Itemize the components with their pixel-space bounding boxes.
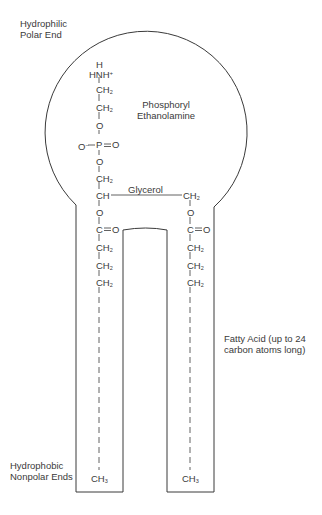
atom-ch3-left: CH3 — [91, 474, 108, 486]
hydrophilic-label: Hydrophilic Polar End — [20, 18, 67, 40]
atom-c-o: O — [112, 225, 119, 235]
hydrophobic-label: Hydrophobic Nonpolar Ends — [10, 460, 73, 482]
glycerol-label: Glycerol — [128, 184, 163, 195]
atom-c-right: C — [187, 225, 194, 235]
atom-ch2-f: CH2 — [96, 278, 113, 290]
atom-p: P — [96, 140, 102, 150]
right-chain-bonds — [190, 200, 202, 470]
atom-ch: CH — [96, 191, 110, 201]
atom-ch2-right-a: CH2 — [183, 191, 200, 203]
atom-ch3-right: CH3 — [182, 474, 199, 486]
atom-o3: O — [96, 208, 103, 218]
atom-c-o-right: O — [203, 225, 210, 235]
atom-o-double: O — [112, 140, 119, 150]
atom-ch2-right-b: CH2 — [187, 243, 204, 255]
phosphoryl-ethanolamine-label: Phosphoryl Ethanolamine — [137, 99, 195, 121]
atom-ch2-b: CH2 — [96, 103, 113, 115]
atom-o-right: O — [187, 208, 194, 218]
atom-hnh-plus: HNH+ — [89, 68, 113, 80]
atom-ch2-c: CH2 — [96, 174, 113, 186]
fatty-acid-label: Fatty Acid (up to 24 carbon atoms long) — [224, 333, 306, 355]
left-chain-bonds — [88, 77, 182, 470]
atom-o2: O — [96, 157, 103, 167]
atom-ch2-right-c: CH2 — [187, 261, 204, 273]
atom-ch2-e: CH2 — [96, 261, 113, 273]
atom-o-minus: O− — [78, 140, 89, 152]
atom-c: C — [96, 225, 103, 235]
atom-ch2-d: CH2 — [96, 243, 113, 255]
atom-ch2-a: CH2 — [96, 85, 113, 97]
phospholipid-outline — [0, 0, 322, 515]
atom-ch2-right-d: CH2 — [187, 278, 204, 290]
atom-o1: O — [96, 121, 103, 131]
